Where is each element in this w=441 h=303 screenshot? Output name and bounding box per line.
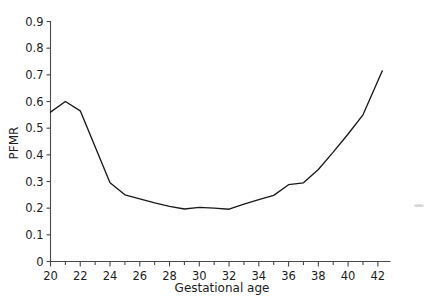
y-tick-label: 0.7: [25, 68, 43, 82]
y-tick-label: 0.5: [25, 121, 43, 135]
x-tick-label: 26: [132, 269, 147, 283]
x-tick-label: 22: [73, 269, 88, 283]
x-tick-label: 40: [341, 269, 356, 283]
y-tick-label: 0.6: [25, 95, 43, 109]
y-tick-label: 0.9: [25, 15, 43, 29]
y-tick-label: 0.2: [25, 201, 43, 215]
x-tick-label: 38: [311, 269, 326, 283]
y-tick-label: 0: [36, 255, 43, 269]
chart-figure: 00.10.20.30.40.50.60.70.80.9 20222426283…: [0, 0, 441, 303]
chart-canvas: 00.10.20.30.40.50.60.70.80.9 20222426283…: [0, 0, 441, 303]
y-tick-label: 0.4: [25, 148, 43, 162]
x-axis-title: Gestational age: [175, 281, 270, 295]
scan-artifact-mark: [414, 204, 424, 207]
y-tick-label: 0.1: [25, 228, 43, 242]
x-tick-label: 36: [281, 269, 296, 283]
y-tick-label: 0.3: [25, 175, 43, 189]
chart-background: [0, 0, 441, 303]
y-tick-label: 0.8: [25, 41, 43, 55]
x-tick-label: 24: [103, 269, 118, 283]
x-tick-label: 42: [371, 269, 386, 283]
y-axis-title: PFMR: [7, 127, 21, 160]
x-tick-label: 20: [43, 269, 58, 283]
